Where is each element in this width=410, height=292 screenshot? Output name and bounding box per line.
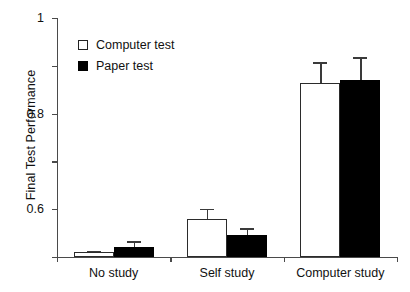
y-tick-label: 1	[37, 11, 44, 25]
legend-item: Computer test	[78, 36, 175, 53]
legend-item: Paper test	[78, 57, 175, 74]
error-bar-cap	[353, 57, 367, 58]
error-bar-cap	[200, 209, 214, 210]
bar	[300, 83, 340, 257]
x-tick-mark	[170, 257, 171, 262]
bar	[340, 80, 380, 257]
error-bar-cap	[127, 241, 141, 242]
bar	[187, 219, 227, 257]
y-axis-label: Final Test Performance	[24, 45, 38, 225]
x-tick-mark	[397, 257, 398, 262]
bar-chart: Final Test Performance 00.20.40.60.81 No…	[0, 0, 410, 292]
y-tick-mark: 1	[52, 18, 57, 19]
chart-legend: Computer test Paper test	[78, 36, 175, 78]
error-bar-cap	[313, 62, 327, 63]
x-tick-label: Computer study	[296, 266, 384, 280]
x-tick-mark	[57, 257, 58, 262]
y-axis-line	[57, 18, 58, 257]
y-tick-label: 0.8	[27, 107, 44, 121]
x-tick-label: Self study	[200, 266, 255, 280]
open-square-swatch	[78, 40, 88, 50]
y-tick-mark: 0.6	[52, 114, 57, 115]
bar	[74, 252, 114, 257]
y-tick-label: 0.6	[27, 202, 44, 216]
x-tick-mark	[284, 257, 285, 262]
legend-item-label: Computer test	[96, 38, 175, 52]
error-bar-cap	[240, 228, 254, 229]
filled-square-swatch	[78, 61, 88, 71]
x-axis-line	[57, 257, 397, 258]
y-tick-mark: 0.8	[52, 66, 57, 67]
error-bar-stem	[320, 62, 321, 82]
bar	[114, 247, 154, 257]
error-bar-cap	[87, 251, 101, 252]
x-tick-label: No study	[89, 266, 138, 280]
error-bar-stem	[360, 57, 361, 80]
legend-item-label: Paper test	[96, 59, 153, 73]
y-tick-mark: 0.2	[52, 209, 57, 210]
error-bar-stem	[207, 209, 208, 219]
bar	[227, 235, 267, 257]
y-tick-mark: 0.4	[52, 161, 57, 162]
